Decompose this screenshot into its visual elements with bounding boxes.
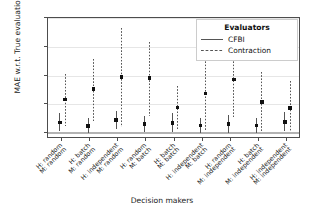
x-tick-mark [286,138,287,141]
chart-figure: MAE w.r.t. True evaluation 0.000.020.040… [0,0,324,211]
legend-swatch-dashed-icon [201,47,223,54]
x-axis-title: Decision makers [0,196,324,205]
legend-title: Evaluators [201,23,293,32]
x-tick-mark [174,138,175,141]
legend-swatch-solid-icon [201,36,223,43]
legend-item-cfbi[interactable]: CFBI [201,35,293,44]
legend: Evaluators CFBI Contraction [196,19,298,61]
x-tick-mark [230,138,231,141]
x-tick-mark [89,138,90,141]
x-tick-mark [61,138,62,141]
x-tick-mark [145,138,146,141]
x-tick-mark [202,138,203,141]
x-tick-mark [258,138,259,141]
legend-item-contraction[interactable]: Contraction [201,46,293,55]
legend-label-contraction: Contraction [228,46,271,55]
x-tick-mark [117,138,118,141]
legend-label-cfbi: CFBI [228,35,245,44]
